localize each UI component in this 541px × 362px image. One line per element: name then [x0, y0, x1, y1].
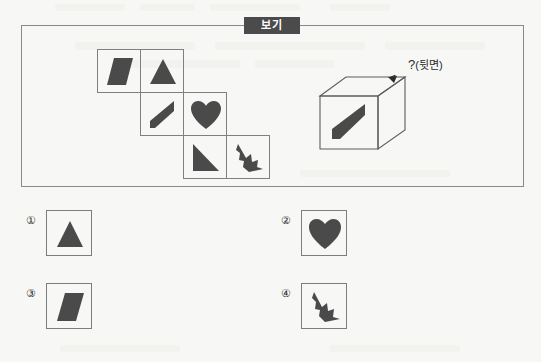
option-1-box[interactable] [46, 210, 92, 256]
boki-label: 보기 [244, 17, 300, 34]
slash-wedge-icon [141, 93, 185, 137]
right-triangle-icon [184, 136, 228, 180]
scan-artifact [140, 4, 195, 11]
option-3[interactable]: ③ [22, 283, 92, 329]
back-face-paren-text: (뒷면) [415, 59, 442, 71]
triangle-icon [47, 211, 93, 257]
scan-artifact [60, 345, 180, 352]
net-cell-right-triangle[interactable] [183, 135, 227, 179]
jagged-arrow-icon [302, 284, 348, 330]
scan-artifact [330, 345, 460, 352]
jagged-arrow-icon [227, 136, 271, 180]
scan-artifact [55, 4, 125, 11]
net-cell-arrow[interactable] [226, 135, 270, 179]
heart-icon [184, 93, 228, 137]
option-1-number: ① [22, 212, 39, 229]
heart-icon [302, 211, 348, 257]
cube-right-face [378, 77, 405, 149]
option-3-number: ③ [22, 285, 39, 302]
scan-artifact [330, 4, 390, 11]
pointer-arrowhead [388, 76, 397, 83]
back-face-label: ?(뒷면) [408, 56, 443, 72]
option-2-box[interactable] [301, 210, 347, 256]
cube-face-slash-icon [332, 104, 365, 139]
net-cell-triangle[interactable] [140, 49, 184, 93]
option-2[interactable]: ② [277, 210, 347, 256]
option-1[interactable]: ① [22, 210, 92, 256]
net-cell-slash[interactable] [140, 92, 184, 136]
parallelogram-icon [98, 50, 142, 94]
option-4-box[interactable] [301, 283, 347, 329]
triangle-icon [141, 50, 185, 94]
option-3-box[interactable] [46, 283, 92, 329]
option-2-number: ② [277, 212, 294, 229]
net-cell-heart[interactable] [183, 92, 227, 136]
cube-diagram [318, 75, 413, 155]
option-4-number: ④ [277, 285, 294, 302]
cube-svg [318, 75, 413, 155]
net-cell-parallelogram[interactable] [97, 49, 141, 93]
parallelogram-icon [47, 284, 93, 330]
scan-artifact [210, 4, 300, 11]
option-4[interactable]: ④ [277, 283, 347, 329]
